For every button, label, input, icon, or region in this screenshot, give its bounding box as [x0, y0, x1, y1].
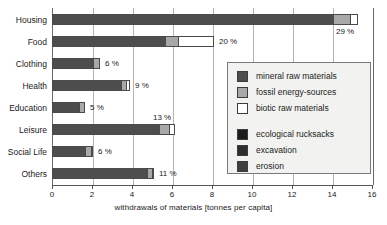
x-tick-mark — [172, 185, 173, 189]
percent-label-education: 5 % — [90, 103, 104, 113]
category-label-education: Education — [0, 103, 47, 113]
bar-segment-biotic-raw-materials — [178, 37, 213, 46]
category-label-health: Health — [0, 81, 47, 91]
percent-label-food: 20 % — [219, 37, 237, 47]
gridline — [173, 8, 174, 185]
category-label-others: Others — [0, 169, 47, 179]
x-tick-mark — [52, 185, 53, 189]
bar-segment-mineral-raw-materials — [53, 59, 93, 68]
category-label-social-life: Social Life — [0, 147, 47, 157]
x-tick-mark — [332, 185, 333, 189]
x-tick-mark — [92, 185, 93, 189]
category-label-food: Food — [0, 37, 47, 47]
bar-segment-mineral-raw-materials — [53, 147, 85, 156]
bar-food — [52, 36, 214, 47]
legend-item[interactable]: erosion — [237, 160, 284, 172]
legend-swatch-icon — [237, 161, 248, 172]
x-tick-label: 6 — [160, 190, 184, 200]
x-tick-mark — [252, 185, 253, 189]
percent-label-leisure: 13 % — [153, 113, 171, 123]
bar-segment-biotic-raw-materials — [126, 81, 129, 90]
bar-segment-biotic-raw-materials — [350, 15, 357, 24]
bar-segment-fossil-energy-sources — [333, 15, 350, 24]
bar-segment-fossil-energy-sources — [159, 125, 169, 134]
percent-label-clothing: 6 % — [105, 59, 119, 69]
percent-label-housing: 29 % — [336, 27, 354, 37]
bar-segment-mineral-raw-materials — [53, 15, 333, 24]
x-tick-label: 10 — [240, 190, 264, 200]
bar-segment-fossil-energy-sources — [93, 59, 99, 68]
percent-label-social-life: 6 % — [98, 147, 112, 157]
percent-label-others: 11 % — [159, 169, 177, 179]
bar-leisure — [52, 124, 175, 135]
legend-swatch-icon — [237, 129, 248, 140]
x-tick-mark — [132, 185, 133, 189]
x-tick-label: 16 — [360, 190, 384, 200]
x-tick-mark — [292, 185, 293, 189]
bar-education — [52, 102, 85, 113]
legend-item[interactable]: ecological rucksacks — [237, 128, 334, 140]
percent-label-health: 9 % — [135, 81, 149, 91]
legend-label: fossil energy-sources — [256, 87, 336, 98]
category-label-leisure: Leisure — [0, 125, 47, 135]
legend-swatch-icon — [237, 145, 248, 156]
bar-segment-biotic-raw-materials — [169, 125, 174, 134]
bar-clothing — [52, 58, 100, 69]
bar-segment-mineral-raw-materials — [53, 37, 165, 46]
bar-segment-biotic-raw-materials — [91, 147, 92, 156]
bar-segment-fossil-energy-sources — [165, 37, 178, 46]
x-tick-label: 12 — [280, 190, 304, 200]
bar-social-life — [52, 146, 93, 157]
gridline — [93, 8, 94, 185]
bar-others — [52, 168, 154, 179]
legend-label: excavation — [256, 145, 297, 156]
legend-swatch-icon — [237, 71, 248, 82]
x-tick-label: 8 — [200, 190, 224, 200]
legend-label: ecological rucksacks — [256, 129, 334, 140]
bar-housing — [52, 14, 358, 25]
bar-health — [52, 80, 130, 91]
legend-item[interactable]: fossil energy-sources — [237, 86, 336, 98]
legend: mineral raw materialsfossil energy-sourc… — [227, 62, 371, 174]
legend-label: biotic raw materials — [256, 103, 329, 114]
legend-label: mineral raw materials — [256, 71, 337, 82]
bar-segment-mineral-raw-materials — [53, 81, 121, 90]
x-tick-label: 0 — [40, 190, 64, 200]
legend-item[interactable]: biotic raw materials — [237, 102, 329, 114]
legend-swatch-icon — [237, 103, 248, 114]
x-tick-mark — [212, 185, 213, 189]
gridline — [133, 8, 134, 185]
category-label-housing: Housing — [0, 15, 47, 25]
x-tick-label: 2 — [80, 190, 104, 200]
stacked-bar-chart: HousingFoodClothingHealthEducationLeisur… — [0, 0, 387, 225]
category-label-clothing: Clothing — [0, 59, 47, 69]
x-axis-title: withdrawals of materials [tonnes per cap… — [0, 203, 387, 212]
bar-segment-biotic-raw-materials — [152, 169, 153, 178]
bar-segment-fossil-energy-sources — [79, 103, 84, 112]
legend-item[interactable]: excavation — [237, 144, 297, 156]
bar-segment-mineral-raw-materials — [53, 103, 79, 112]
legend-swatch-icon — [237, 87, 248, 98]
x-tick-mark — [372, 185, 373, 189]
x-tick-label: 4 — [120, 190, 144, 200]
bar-segment-mineral-raw-materials — [53, 125, 159, 134]
legend-item[interactable]: mineral raw materials — [237, 70, 337, 82]
x-tick-label: 14 — [320, 190, 344, 200]
legend-label: erosion — [256, 161, 284, 172]
gridline — [213, 8, 214, 185]
bar-segment-mineral-raw-materials — [53, 169, 147, 178]
